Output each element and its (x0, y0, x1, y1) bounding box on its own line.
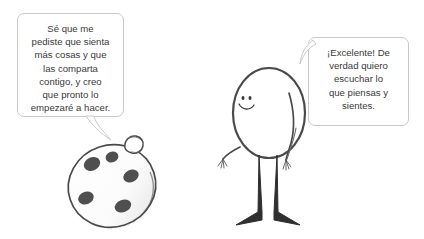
egg-knob-detail (131, 151, 141, 153)
arm-right (286, 93, 293, 160)
egg-body (57, 133, 166, 238)
hand-left (218, 159, 227, 168)
comic-scene: Sé que me pediste que sienta más cosas y… (0, 0, 424, 239)
speech-bubble-right: ¡Excelente! De verdad quiero escuchar lo… (308, 37, 409, 126)
stick-body (233, 68, 305, 158)
leg-right (274, 155, 300, 225)
egg-spot (121, 167, 141, 185)
egg-spot (104, 150, 120, 165)
tail-left (86, 116, 111, 140)
egg-spot (76, 189, 95, 206)
arm-left (223, 147, 240, 159)
speech-bubble-left: Sé que me pediste que sienta más cosas y… (17, 13, 124, 117)
egg-spot (82, 155, 103, 174)
eye-right-icon (249, 96, 252, 100)
egg-contour (144, 172, 153, 212)
eye-left-icon (242, 96, 245, 100)
egg-character (57, 133, 166, 238)
egg-knob (125, 136, 143, 153)
stick-character (218, 68, 305, 225)
egg-knob-detail (129, 137, 142, 141)
leg-left (236, 155, 262, 225)
hand-right (283, 160, 291, 170)
egg-spot (113, 197, 133, 214)
smile-icon (239, 104, 254, 109)
arm-right-inner (287, 128, 296, 159)
egg-shadow (103, 163, 155, 229)
